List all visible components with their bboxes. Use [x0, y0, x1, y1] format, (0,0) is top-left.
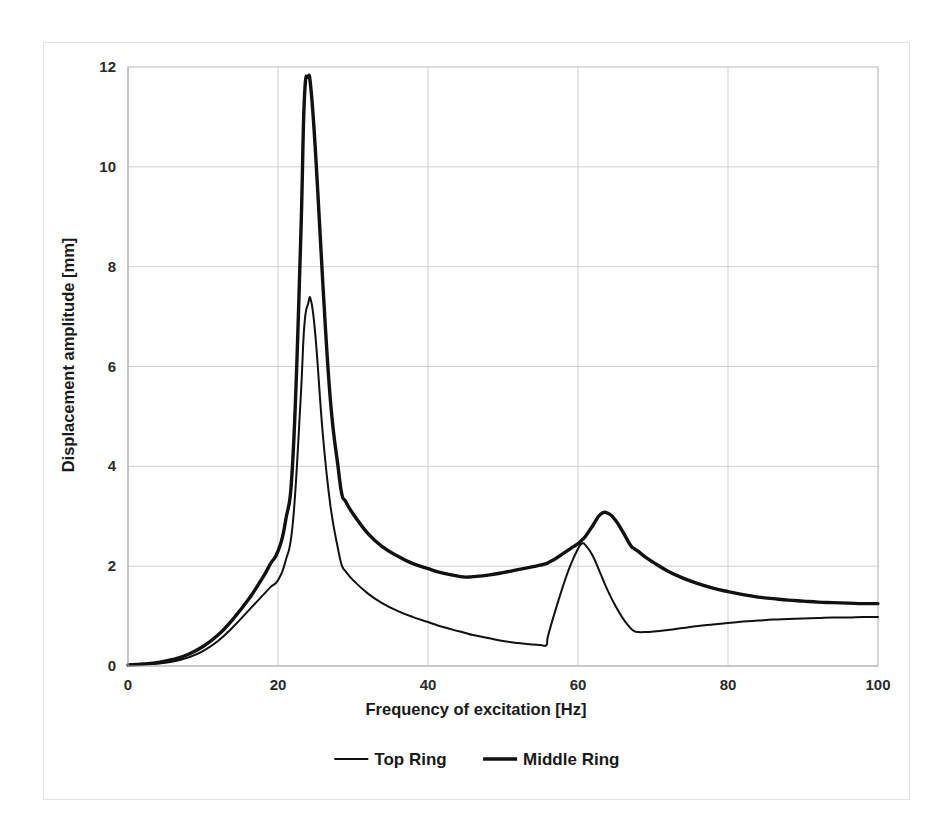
x-tick-label: 20	[270, 676, 287, 693]
legend: Top RingMiddle Ring	[334, 750, 619, 769]
y-tick-label: 8	[108, 258, 116, 275]
y-axis-tick-labels: 024681012	[99, 58, 116, 674]
x-tick-label: 60	[570, 676, 587, 693]
y-axis-title: Displacement amplitude [mm]	[59, 238, 77, 473]
gridlines-group	[128, 67, 878, 666]
y-tick-label: 6	[108, 358, 116, 375]
x-tick-label: 100	[865, 676, 890, 693]
y-tick-label: 2	[108, 557, 116, 574]
x-axis-tick-labels: 020406080100	[124, 676, 891, 693]
y-tick-label: 12	[99, 58, 116, 75]
legend-label-middle-ring: Middle Ring	[523, 750, 619, 769]
y-tick-label: 10	[99, 158, 116, 175]
x-tick-label: 80	[720, 676, 737, 693]
figure-container: 020406080100 024681012 Frequency of exci…	[43, 42, 910, 800]
x-axis-title: Frequency of excitation [Hz]	[366, 700, 587, 718]
chart-canvas: 020406080100 024681012 Frequency of exci…	[44, 43, 909, 799]
y-tick-label: 0	[108, 657, 116, 674]
x-tick-label: 0	[124, 676, 132, 693]
x-tick-label: 40	[420, 676, 437, 693]
legend-label-top-ring: Top Ring	[374, 750, 446, 769]
y-tick-label: 4	[108, 457, 117, 474]
series-line-middle-ring	[128, 75, 878, 665]
